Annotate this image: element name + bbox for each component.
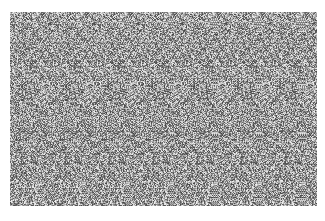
stereogram-image bbox=[10, 12, 317, 206]
